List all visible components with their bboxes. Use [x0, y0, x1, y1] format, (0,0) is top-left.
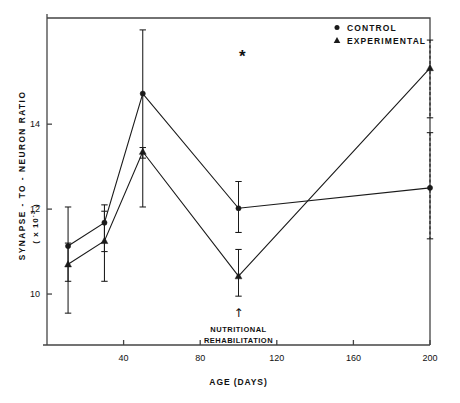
data-point-control: [140, 91, 145, 96]
series-line-experimental: [68, 68, 430, 276]
x-axis-tick-label: 80: [195, 353, 205, 363]
x-axis-tick-label: 40: [119, 353, 129, 363]
data-point-experimental: [139, 148, 146, 154]
data-point-control: [427, 185, 432, 190]
x-axis-title: AGE (DAYS): [209, 377, 267, 387]
y-axis-tick-label: 10: [30, 289, 40, 299]
data-point-experimental: [101, 237, 108, 243]
legend-marker-triangle: [334, 37, 341, 43]
data-point-control: [236, 206, 241, 211]
nutritional-rehabilitation-arrow-icon: ↑: [233, 306, 243, 320]
x-axis-tick-label: 200: [422, 353, 437, 363]
nutritional-rehabilitation-line1: NUTRITIONAL: [210, 325, 266, 334]
data-point-experimental: [427, 65, 434, 71]
legend-label-experimental: EXPERIMENTAL: [347, 36, 426, 46]
y-axis-units: ( x 10-3 ): [30, 203, 40, 243]
series-line-control: [68, 94, 430, 246]
synapse-to-neuron-ratio-chart: 1012144080120160200AGE (DAYS)SYNAPSE - T…: [0, 0, 460, 403]
nutritional-rehabilitation-line2: REHABILITATION: [204, 336, 273, 345]
legend-label-control: CONTROL: [347, 23, 397, 33]
x-axis-tick-label: 160: [346, 353, 361, 363]
chart-figure: 1012144080120160200AGE (DAYS)SYNAPSE - T…: [0, 0, 460, 403]
data-point-experimental: [65, 261, 72, 267]
significance-asterisk: *: [239, 47, 246, 66]
x-axis-tick-label: 120: [269, 353, 284, 363]
legend-marker-circle: [335, 25, 340, 30]
y-axis-title: SYNAPSE - TO - NEURON RATIO: [17, 91, 27, 261]
y-axis-tick-label: 14: [30, 119, 40, 129]
